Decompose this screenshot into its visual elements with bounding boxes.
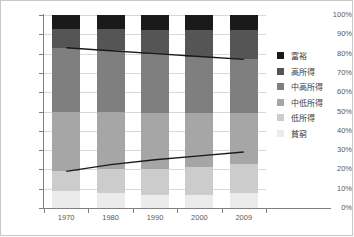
x-tick-label: 2009 [222, 213, 266, 222]
legend-item: 富裕 [277, 48, 347, 64]
x-tick-label: 1990 [133, 213, 177, 222]
x-axis-line [43, 208, 331, 209]
legend-item: 高所得 [277, 64, 347, 80]
legend-label: 高所得 [291, 66, 315, 77]
y-tick-mark [39, 169, 43, 170]
upper-trend [66, 48, 244, 60]
legend-swatch-icon [277, 114, 284, 121]
y-tick-mark [39, 150, 43, 151]
y-tick-mark [39, 15, 43, 16]
y-tick-mark [39, 189, 43, 190]
y-tick-label: 100% [318, 11, 352, 19]
y-tick-label: 30% [318, 146, 352, 154]
plot-area [44, 15, 266, 208]
legend-label: 中低所得 [291, 97, 323, 108]
y-tick-mark [39, 54, 43, 55]
y-tick-mark [39, 208, 43, 209]
legend-label: 富裕 [291, 50, 307, 61]
chart-figure: 0%10%20%30%40%50%60%70%80%90%100% 197019… [0, 0, 353, 236]
legend-item: 中高所得 [277, 79, 347, 95]
legend-label: 中高所得 [291, 81, 323, 92]
lower-trend [66, 152, 244, 171]
y-tick-label: 10% [318, 185, 352, 193]
chart-legend: 富裕高所得中高所得中低所得低所得貧窮 [277, 48, 347, 141]
trend-lines [44, 15, 266, 208]
y-tick-label: 20% [318, 165, 352, 173]
legend-item: 低所得 [277, 110, 347, 126]
y-tick-label: 90% [318, 30, 352, 38]
y-tick-mark [39, 112, 43, 113]
x-tick-mark [266, 209, 267, 213]
y-tick-mark [39, 92, 43, 93]
legend-item: 中低所得 [277, 95, 347, 111]
x-tick-label: 1970 [44, 213, 88, 222]
y-tick-label: 0% [318, 204, 352, 212]
legend-label: 低所得 [291, 112, 315, 123]
legend-swatch-icon [277, 83, 284, 90]
legend-swatch-icon [277, 52, 284, 59]
legend-label: 貧窮 [291, 128, 307, 139]
x-tick-label: 2000 [177, 213, 221, 222]
y-tick-mark [39, 34, 43, 35]
y-tick-mark [39, 73, 43, 74]
legend-swatch-icon [277, 99, 284, 106]
legend-swatch-icon [277, 130, 284, 137]
x-tick-label: 1980 [89, 213, 133, 222]
legend-item: 貧窮 [277, 126, 347, 142]
legend-swatch-icon [277, 68, 284, 75]
y-tick-mark [39, 131, 43, 132]
